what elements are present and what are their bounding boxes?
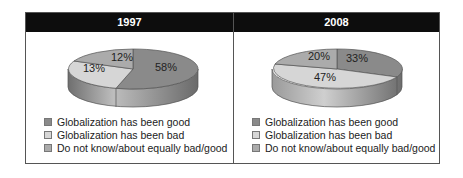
slice-label-dk: 12% bbox=[111, 51, 133, 63]
legend-2008: Globalization has been good Globalizatio… bbox=[252, 115, 435, 154]
legend-item-good: Globalization has been good bbox=[252, 115, 435, 128]
pie-chart-1997: 58% 13% 12% bbox=[58, 39, 208, 114]
legend-item-dk: Do not know/about equally bad/good bbox=[44, 141, 227, 154]
legend-item-bad: Globalization has been bad bbox=[252, 128, 435, 141]
panel-title: 2008 bbox=[234, 13, 439, 32]
slice-label-bad: 47% bbox=[314, 71, 336, 83]
legend-item-dk: Do not know/about equally bad/good bbox=[252, 141, 435, 154]
legend-item-good: Globalization has been good bbox=[44, 115, 227, 128]
swatch-icon bbox=[44, 144, 52, 152]
slice-label-bad: 13% bbox=[83, 62, 105, 74]
panel-title: 1997 bbox=[26, 13, 233, 32]
swatch-icon bbox=[44, 131, 52, 139]
swatch-icon bbox=[252, 144, 260, 152]
swatch-icon bbox=[44, 118, 52, 126]
slice-label-dk: 20% bbox=[308, 50, 330, 62]
slice-label-good: 33% bbox=[346, 52, 368, 64]
slice-label-good: 58% bbox=[155, 61, 177, 73]
swatch-icon bbox=[252, 118, 260, 126]
pie-chart-2008: 33% 47% 20% bbox=[262, 39, 412, 114]
swatch-icon bbox=[252, 131, 260, 139]
panel-2008: 2008 33% 47% 20% Globalization has been … bbox=[234, 13, 439, 163]
legend-1997: Globalization has been good Globalizatio… bbox=[44, 115, 227, 154]
chart-frame: 1997 58% 13% 12% Globalization has been … bbox=[25, 12, 440, 164]
legend-item-bad: Globalization has been bad bbox=[44, 128, 227, 141]
panel-1997: 1997 58% 13% 12% Globalization has been … bbox=[26, 13, 234, 163]
